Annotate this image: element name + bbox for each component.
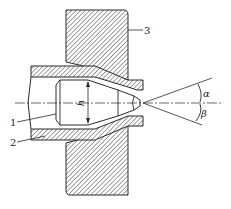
angle-alpha-arc: [198, 84, 201, 102]
dimension-h-label: h: [75, 100, 86, 106]
part-1-label: 1: [10, 117, 16, 128]
spray-line-lower: [143, 103, 202, 125]
part-2-label: 2: [10, 137, 16, 148]
angle-alpha-label: α: [203, 88, 210, 99]
angle-beta-label: β: [200, 108, 207, 119]
spray-line-upper: [143, 78, 212, 103]
nozzle-section-diagram: h α β 3 1 2: [0, 0, 231, 209]
leader-part-1: [17, 114, 56, 122]
part-3-label: 3: [144, 25, 150, 36]
